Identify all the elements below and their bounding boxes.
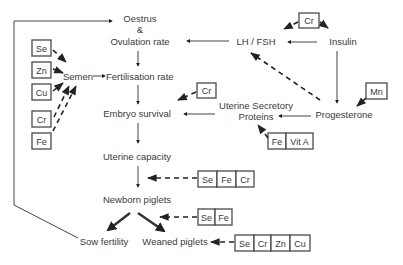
ampersand-label: & [137,24,144,35]
ovulation-rate-label: Ovulation rate [110,36,169,47]
nutrient-box-se-uc: Se [198,171,217,187]
dashed-arrow-mn-progesterone [357,98,366,106]
svg-text:Zn: Zn [275,239,286,249]
svg-text:Fe: Fe [221,175,232,185]
svg-text:Fe: Fe [218,213,229,223]
svg-text:Cr: Cr [258,239,268,249]
uterine-capacity-label: Uterine capacity [103,151,171,162]
uterine-secretory-label: Uterine Secretory [219,100,293,111]
dashed-arrow-progesterone-lh [251,53,320,100]
svg-text:Zn: Zn [36,66,47,76]
svg-text:Se: Se [239,239,250,249]
svg-text:Cr: Cr [37,115,47,125]
dashed-arrow-fe-proteins [258,125,268,138]
nutrient-box-fe-proteins: Fe [268,133,286,149]
nutrient-box-cu: Cu [32,84,51,100]
insulin-label: Insulin [329,36,356,47]
svg-text:Cr: Cr [240,175,250,185]
fertilisation-rate-label: Fertilisation rate [106,71,174,82]
arrow-newborn-sow [108,213,130,230]
proteins-label: Proteins [239,111,274,122]
nutrient-box-fe-uc: Fe [217,171,236,187]
lh-fsh-label: LH / FSH [236,36,275,47]
dashed-arrow-cr-lh [284,22,298,29]
nutrient-box-mn: Mn [366,83,387,99]
progesterone-label: Progesterone [315,109,372,120]
feedback-loop-arrow [14,21,112,238]
svg-text:Cr: Cr [202,86,212,96]
svg-text:Vit A: Vit A [290,137,308,147]
dashed-arrow-cr-insulin [320,22,328,28]
dashed-arrow-cr-embryo [178,92,196,100]
nutrient-box-se: Se [32,40,51,56]
nutrient-box-se-weaned: Se [235,235,254,251]
nutrient-box-fe-newborn: Fe [215,209,232,225]
svg-text:Se: Se [36,44,47,54]
semen-label: Semen [63,71,93,82]
svg-text:Cu: Cu [36,88,48,98]
dashed-arrow-fe-semen [53,86,76,131]
arrow-newborn-weaned [138,213,164,231]
svg-text:Cr: Cr [304,16,314,26]
svg-text:Fe: Fe [36,137,47,147]
nutrient-box-zn: Zn [32,62,51,78]
nutrient-box-vita-proteins: Vit A [286,133,313,149]
nutrient-box-cr-weaned: Cr [254,235,271,251]
nutrient-box-cr-uc: Cr [236,171,254,187]
nutrient-box-cr: Cr [32,111,51,127]
dashed-arrow-cu-semen [53,83,63,91]
nutrient-box-se-newborn: Se [198,209,215,225]
svg-text:Se: Se [201,213,212,223]
nutrient-box-fe: Fe [32,133,51,149]
newborn-piglets-label: Newborn piglets [103,194,171,205]
dashed-arrow-cr-semen [54,86,69,117]
sow-fertility-label: Sow fertility [80,236,129,247]
dashed-arrow-zn-semen [53,69,63,73]
nutrient-box-cr-embryo: Cr [197,83,216,98]
weaned-piglets-label: Weaned piglets [142,236,208,247]
nutrient-box-zn-weaned: Zn [271,235,290,251]
nutrient-box-cu-weaned: Cu [290,235,310,251]
svg-text:Fe: Fe [272,137,283,147]
svg-text:Mn: Mn [370,87,383,97]
dashed-arrow-se-semen [53,50,66,62]
embryo-survival-label: Embryo survival [103,108,171,119]
svg-text:Cu: Cu [294,239,306,249]
nutrient-box-cr-insulin: Cr [299,13,319,28]
svg-text:Se: Se [202,175,213,185]
reproduction-nutrient-diagram: Oestrus & Ovulation rate LH / FSH Insuli… [0,0,403,265]
oestrus-label: Oestrus [123,13,157,24]
